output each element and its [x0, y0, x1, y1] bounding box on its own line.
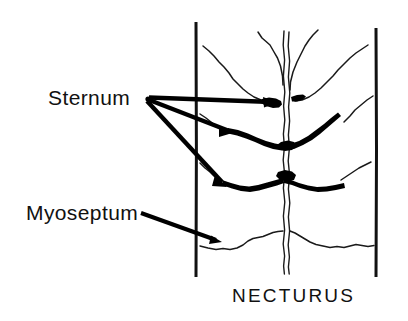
linea-alba-right-stroke	[288, 32, 290, 274]
necturus-sternum-diagram: Sternum Myoseptum NECTURUS	[0, 0, 408, 321]
figure-root: Sternum Myoseptum NECTURUS	[0, 0, 408, 321]
label-sternum: Sternum	[48, 86, 130, 109]
sternum-pointer-origin	[145, 96, 150, 101]
label-species-necturus: NECTURUS	[232, 285, 355, 306]
label-myoseptum: Myoseptum	[26, 201, 138, 224]
right-body-margin-line	[376, 28, 377, 277]
